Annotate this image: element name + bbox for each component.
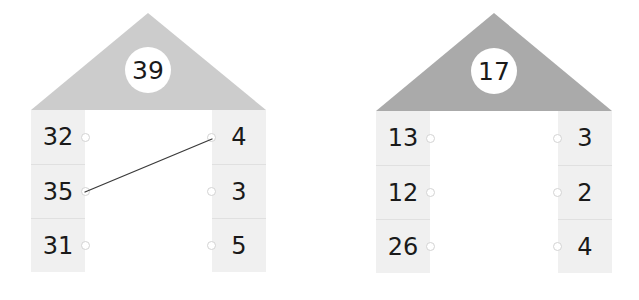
cell-value: 35: [43, 180, 74, 204]
left-column-left-house: 32 35 31: [31, 110, 85, 272]
cell-value: 13: [388, 126, 419, 150]
cell-value: 5: [231, 234, 246, 258]
house-target-badge-right: 17: [471, 48, 517, 94]
cell-left-0[interactable]: 13: [376, 111, 430, 165]
connector-dot-icon[interactable]: [426, 134, 435, 143]
connector-dot-icon[interactable]: [553, 188, 562, 197]
cell-value: 31: [43, 234, 74, 258]
right-column-right-house: 3 2 4: [558, 111, 612, 273]
connector-dot-icon[interactable]: [207, 133, 216, 142]
cell-left-1[interactable]: 35: [31, 164, 85, 218]
house-target-value-left: 39: [132, 58, 164, 83]
connector-dot-icon[interactable]: [426, 242, 435, 251]
cell-right-1[interactable]: 3: [212, 164, 266, 218]
cell-value: 2: [577, 181, 592, 205]
cell-value: 26: [388, 235, 419, 259]
house-target-value-right: 17: [478, 59, 510, 84]
cell-value: 3: [577, 126, 592, 150]
cell-left-0[interactable]: 32: [31, 110, 85, 164]
connector-dot-icon[interactable]: [81, 241, 90, 250]
cell-value: 32: [43, 125, 74, 149]
connector-dot-icon[interactable]: [207, 187, 216, 196]
cell-left-2[interactable]: 31: [31, 218, 85, 272]
house-right: 17 13 12 26 3 2: [339, 0, 639, 300]
connector-dot-icon[interactable]: [81, 133, 90, 142]
connector-dot-icon[interactable]: [81, 187, 90, 196]
house-target-badge-left: 39: [125, 47, 171, 93]
cell-left-2[interactable]: 26: [376, 219, 430, 273]
cell-right-0[interactable]: 4: [212, 110, 266, 164]
connector-dot-icon[interactable]: [426, 188, 435, 197]
cell-right-0[interactable]: 3: [558, 111, 612, 165]
connector-dot-icon[interactable]: [553, 242, 562, 251]
left-column-right-house: 13 12 26: [376, 111, 430, 273]
cell-left-1[interactable]: 12: [376, 165, 430, 219]
cell-value: 12: [388, 181, 419, 205]
puzzle-canvas: 39 32 35 31 4 3: [0, 0, 639, 300]
cell-right-2[interactable]: 5: [212, 218, 266, 272]
house-left: 39 32 35 31 4 3: [0, 0, 300, 300]
connector-dot-icon[interactable]: [553, 134, 562, 143]
cell-right-2[interactable]: 4: [558, 219, 612, 273]
cell-right-1[interactable]: 2: [558, 165, 612, 219]
connector-dot-icon[interactable]: [207, 241, 216, 250]
cell-value: 4: [231, 125, 246, 149]
right-column-left-house: 4 3 5: [212, 110, 266, 272]
cell-value: 4: [577, 235, 592, 259]
cell-value: 3: [231, 180, 246, 204]
